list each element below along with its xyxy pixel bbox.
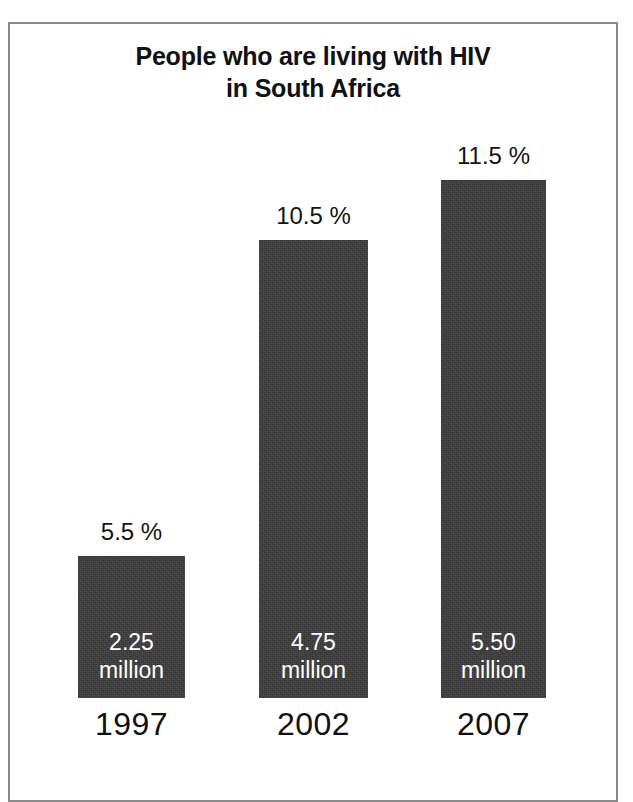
bar-percent-label-2002: 10.5 % xyxy=(276,202,351,230)
bar-category-label-2002: 2002 xyxy=(277,706,350,743)
bar-rect-2002[interactable]: 4.75 million xyxy=(259,240,368,698)
bar-percent-label-2007: 11.5 % xyxy=(457,142,530,170)
bar-rect-2007[interactable]: 5.50 million xyxy=(441,180,546,698)
bar-percent-label-1997: 5.5 % xyxy=(101,518,162,546)
bar-category-label-2007: 2007 xyxy=(457,706,530,743)
bar-group-1997: 5.5 % 2.25 million 1997 xyxy=(78,0,185,768)
bar-rect-1997[interactable]: 2.25 million xyxy=(78,556,185,698)
bar-group-2007: 11.5 % 5.50 million 2007 xyxy=(441,0,546,768)
bar-count-label-2007: 5.50 million xyxy=(441,628,546,684)
bar-count-label-2002: 4.75 million xyxy=(259,628,368,684)
bar-group-2002: 10.5 % 4.75 million 2002 xyxy=(259,0,368,768)
bar-category-label-1997: 1997 xyxy=(95,706,168,743)
bar-count-label-1997: 2.25 million xyxy=(78,628,185,684)
